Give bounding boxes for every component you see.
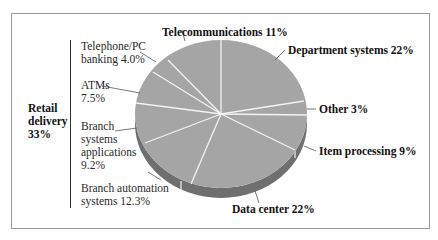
- label-telephone-pc-banking: Telephone/PCbanking 4.0%: [81, 40, 146, 66]
- label-telecommunications: Telecommunications 11%: [162, 26, 288, 39]
- label-atms: ATMs7.5%: [81, 79, 110, 105]
- label-data-center: Data center 22%: [232, 203, 315, 216]
- label-department-systems: Department systems 22%: [288, 44, 414, 57]
- label-item-processing: Item processing 9%: [319, 145, 417, 158]
- retail-delivery-bracket: [70, 40, 71, 208]
- label-retail-delivery: Retaildelivery33%: [28, 102, 68, 141]
- label-branch-automation-systems: Branch automationsystems 12.3%: [81, 182, 169, 208]
- label-branch-systems-applications: Branchsystems applications9.2%: [81, 120, 137, 172]
- label-other: Other 3%: [319, 103, 368, 116]
